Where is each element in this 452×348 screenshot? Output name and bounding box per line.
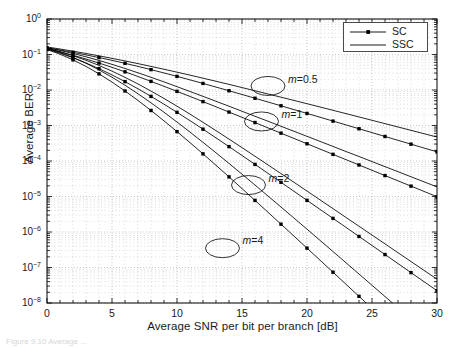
series-marker — [175, 111, 178, 114]
series-marker — [305, 246, 308, 249]
series-marker — [227, 145, 230, 148]
series-marker — [409, 184, 412, 187]
series-marker — [123, 62, 126, 65]
annotation-label-m-0.5: m=0.5 — [288, 73, 317, 85]
series-marker — [331, 153, 334, 156]
y-tick-label: 10−3 — [2, 119, 41, 131]
x-tick-label: 15 — [227, 307, 257, 319]
series-marker — [123, 89, 126, 92]
y-tick-label: 10−4 — [2, 154, 41, 166]
series-marker — [123, 80, 126, 83]
x-tick-label: 30 — [422, 307, 452, 319]
series-marker — [357, 163, 360, 166]
series-marker — [149, 95, 152, 98]
annotation-label-m-4: m=4 — [243, 234, 264, 246]
series-line-6 — [47, 50, 372, 309]
series-marker — [357, 127, 360, 130]
series-marker — [227, 110, 230, 113]
series-marker — [383, 135, 386, 138]
series-marker — [253, 97, 256, 100]
series-marker — [149, 68, 152, 71]
annotation-ellipse-0 — [251, 76, 285, 95]
x-tick-label: 20 — [292, 307, 322, 319]
legend-box[interactable]: SCSSC — [343, 22, 428, 52]
series-marker — [253, 121, 256, 124]
series-marker — [279, 104, 282, 107]
series-marker — [331, 271, 334, 274]
series-marker — [305, 199, 308, 202]
series-marker — [253, 199, 256, 202]
series-marker — [175, 90, 178, 93]
series-marker — [409, 142, 412, 145]
annotation-label-m-2: m=2 — [269, 172, 290, 184]
series-marker — [305, 142, 308, 145]
series-marker — [305, 112, 308, 115]
series-marker — [201, 100, 204, 103]
series-marker — [409, 271, 412, 274]
x-tick-label: 5 — [97, 307, 127, 319]
series-marker — [383, 253, 386, 256]
series-marker — [201, 127, 204, 130]
series-marker — [97, 61, 100, 64]
series-marker — [123, 70, 126, 73]
y-tick-label: 10−2 — [2, 83, 41, 95]
series-marker — [149, 109, 152, 112]
series-marker — [357, 295, 360, 298]
series-line-7 — [47, 48, 398, 307]
series-marker — [201, 82, 204, 85]
x-tick-label: 0 — [32, 307, 62, 319]
series-marker — [97, 72, 100, 75]
annotation-ellipse-1 — [245, 112, 279, 131]
figure-container: Average BER Average SNR per bit per bran… — [0, 0, 452, 348]
y-tick-label: 10−7 — [2, 261, 41, 273]
series-marker — [331, 217, 334, 220]
x-tick-label: 10 — [162, 307, 192, 319]
annotation-ellipse-2 — [232, 176, 266, 195]
series-marker — [227, 89, 230, 92]
grid-lines — [47, 19, 437, 303]
series-marker — [175, 130, 178, 133]
series-marker — [253, 163, 256, 166]
series-marker — [331, 119, 334, 122]
y-tick-label: 10−1 — [2, 48, 41, 60]
legend-sample-lines — [344, 23, 429, 53]
series-marker — [149, 80, 152, 83]
annotation-ellipse-3 — [206, 239, 240, 258]
x-tick-label: 25 — [357, 307, 387, 319]
series-marker — [227, 175, 230, 178]
figure-caption: Figure 9.10 Average ... — [6, 337, 87, 346]
series-marker — [279, 222, 282, 225]
series-marker — [175, 75, 178, 78]
series-line-1 — [47, 47, 437, 137]
y-tick-label: 10−6 — [2, 225, 41, 237]
series-marker — [383, 174, 386, 177]
y-tick-label: 10−5 — [2, 190, 41, 202]
series-marker — [201, 152, 204, 155]
series-marker — [357, 235, 360, 238]
annotation-label-m-1: m=1 — [282, 108, 303, 120]
x-axis-title: Average SNR per bit per branch [dB] — [47, 320, 438, 332]
y-tick-label: 100 — [2, 12, 41, 24]
series-marker — [279, 131, 282, 134]
series-marker — [71, 58, 74, 61]
